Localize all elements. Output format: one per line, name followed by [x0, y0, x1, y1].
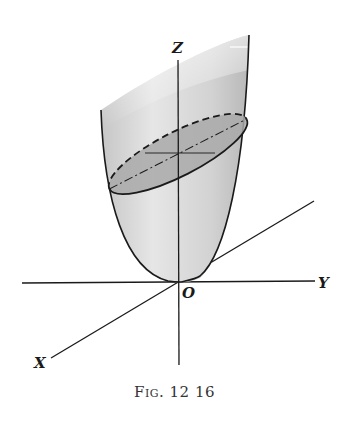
caption-prefix: Fig.	[134, 383, 164, 401]
z-axis-label: Z	[171, 39, 184, 57]
y-axis-label: Y	[318, 274, 330, 292]
x-axis-label: X	[33, 354, 47, 372]
figure-caption: Fig. 12 16	[0, 383, 349, 401]
origin-label: O	[182, 284, 195, 302]
paraboloid-figure: Z Y X O	[0, 0, 349, 432]
caption-number: 12 16	[170, 383, 215, 401]
